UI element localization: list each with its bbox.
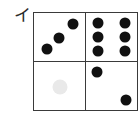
dot-pattern-figure: イ	[0, 0, 140, 120]
dot	[92, 17, 103, 28]
cell-bottom-left[interactable]	[34, 62, 86, 111]
dot	[92, 31, 103, 42]
dot	[92, 67, 103, 78]
dot	[119, 31, 130, 42]
dot	[92, 46, 103, 57]
dot	[54, 32, 65, 43]
cell-top-right[interactable]	[86, 13, 138, 62]
cell-bottom-right[interactable]	[86, 62, 138, 111]
dot	[52, 79, 67, 94]
item-label-i: イ	[10, 2, 34, 28]
dot	[119, 17, 130, 28]
dot	[119, 46, 130, 57]
dot-grid	[33, 12, 138, 111]
dot	[41, 44, 52, 55]
dot	[67, 19, 78, 30]
dot	[120, 94, 131, 105]
cell-top-left[interactable]	[34, 13, 86, 62]
